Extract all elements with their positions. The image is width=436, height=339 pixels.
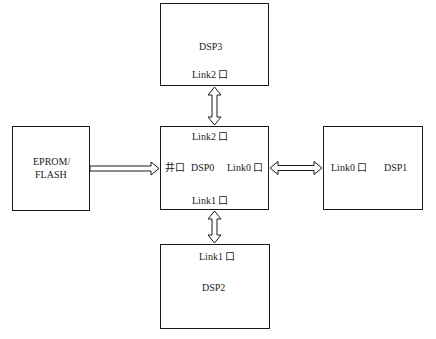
arrow-eprom-to-dsp0 (90, 162, 159, 175)
arrow-dsp0-dsp1 (270, 162, 322, 175)
arrow-dsp0-dsp3 (208, 87, 221, 125)
arrow-dsp0-dsp2 (208, 211, 221, 243)
connection-arrows (0, 0, 436, 339)
